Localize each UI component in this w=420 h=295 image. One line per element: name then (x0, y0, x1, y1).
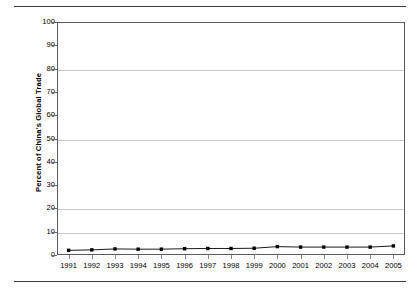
plot-area (57, 22, 405, 255)
gridline (58, 209, 404, 210)
x-tick-mark (69, 255, 70, 259)
x-tick-mark (347, 255, 348, 259)
x-tick-mark (231, 255, 232, 259)
gridline (58, 233, 404, 234)
x-tick-mark (301, 255, 302, 259)
y-tick-label: 90 (15, 42, 55, 50)
y-tick-label: 20 (15, 205, 55, 213)
gridline (58, 140, 404, 141)
y-axis-label: Percent of China's Global Trade (34, 33, 43, 233)
gridline (58, 70, 404, 71)
bottom-divider-rule (14, 281, 406, 282)
top-divider-rule (14, 6, 406, 7)
y-tick-mark (52, 255, 57, 256)
y-tick-label: 100 (15, 18, 55, 26)
x-tick-mark (370, 255, 371, 259)
x-tick-mark (208, 255, 209, 259)
y-tick-label: 10 (15, 228, 55, 236)
y-tick-label: 80 (15, 65, 55, 73)
y-tick-label: 60 (15, 111, 55, 119)
x-tick-mark (92, 255, 93, 259)
x-tick-label: 2005 (373, 262, 413, 270)
x-tick-mark (115, 255, 116, 259)
y-tick-label: 30 (15, 181, 55, 189)
x-tick-mark (161, 255, 162, 259)
x-tick-mark (324, 255, 325, 259)
y-tick-label: 40 (15, 158, 55, 166)
y-tick-label: 70 (15, 88, 55, 96)
x-tick-mark (277, 255, 278, 259)
x-tick-mark (185, 255, 186, 259)
x-tick-mark (138, 255, 139, 259)
x-tick-mark (393, 255, 394, 259)
x-tick-mark (254, 255, 255, 259)
y-tick-label: 50 (15, 135, 55, 143)
chart-figure: Percent of China's Global Trade 01020304… (0, 0, 420, 295)
y-tick-label: 0 (15, 251, 55, 259)
